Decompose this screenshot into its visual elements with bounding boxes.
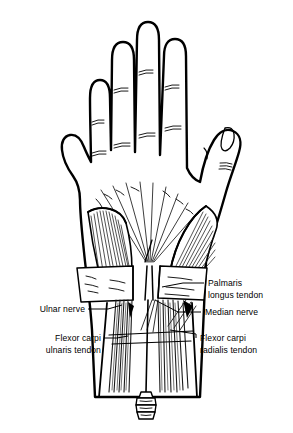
label-ulnar-nerve-line1: Ulnar nerve	[40, 304, 86, 314]
label-flexor-carpi-ulnaris-tendon-line1: Flexor carpi	[55, 333, 101, 343]
anatomy-illustration: Palmar view of hand and wrist anatomy Bl…	[0, 0, 293, 433]
wrist-anatomy-figure: Palmar view of hand and wrist anatomy Bl…	[0, 0, 293, 433]
label-palmaris-longus-tendon-line1: Palmaris	[208, 278, 242, 288]
label-median-nerve-line1: Median nerve	[205, 307, 258, 317]
syringe-hub	[136, 392, 156, 419]
label-flexor-carpi-radialis-tendon-line2: radialis tendon	[200, 345, 257, 355]
label-palmaris-longus-tendon-line2: longus tendon	[208, 290, 263, 300]
label-flexor-carpi-radialis-tendon-line1: Flexor carpi	[200, 333, 246, 343]
label-flexor-carpi-ulnaris-tendon-line2: ulnaris tendon	[46, 345, 101, 355]
